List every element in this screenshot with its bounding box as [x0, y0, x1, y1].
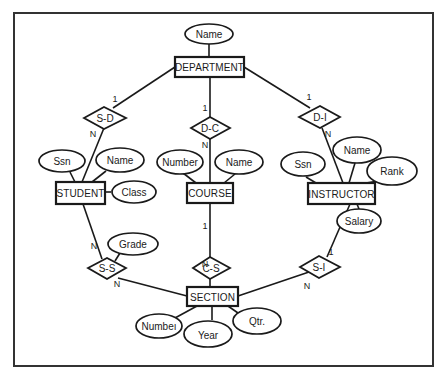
- rel-label: S-I: [313, 262, 326, 273]
- attr-label: Grade: [119, 239, 147, 250]
- rel-label: D-I: [313, 112, 326, 123]
- attr-label: Qtr.: [249, 316, 265, 327]
- attr-section-year[interactable]: Year: [184, 321, 232, 347]
- card-d-i-dept: 1: [306, 92, 311, 102]
- attr-label: Name: [196, 29, 223, 40]
- rel-label: D-C: [201, 123, 219, 134]
- card-s-i-section: N: [304, 281, 311, 291]
- attr-section-number[interactable]: Numbeı: [136, 314, 182, 338]
- card-c-s-course: 1: [202, 221, 207, 231]
- rel-c-s[interactable]: C-S: [193, 257, 230, 279]
- entity-instructor[interactable]: INSTRUCTOR: [308, 183, 375, 204]
- attr-label: Ssn: [294, 159, 311, 170]
- entity-section[interactable]: SECTION: [187, 287, 238, 306]
- rel-s-i[interactable]: S-I: [300, 256, 340, 278]
- attr-instructor-name[interactable]: Name: [333, 137, 381, 163]
- attr-instructor-rank[interactable]: Rank: [367, 157, 417, 185]
- attr-label: Numbeı: [141, 321, 176, 332]
- card-c-s-section: N: [202, 259, 209, 269]
- attr-student-class[interactable]: Class: [112, 181, 156, 203]
- attr-student-ssn[interactable]: Ssn: [39, 150, 85, 172]
- entity-label: SECTION: [190, 292, 235, 303]
- card-d-c-dept: 1: [202, 103, 207, 113]
- card-d-i-instructor: N: [325, 129, 332, 139]
- attr-label: Rank: [380, 166, 404, 177]
- rel-s-d[interactable]: S-D: [84, 107, 126, 129]
- rel-label: S-D: [96, 113, 113, 124]
- attr-instructor-salary[interactable]: Salary: [337, 209, 381, 233]
- rel-d-c[interactable]: D-C: [191, 117, 230, 139]
- entity-label: INSTRUCTOR: [308, 189, 374, 200]
- rel-s-s[interactable]: S-S: [88, 258, 126, 279]
- attr-label: Name: [107, 155, 134, 166]
- attr-label: Name: [226, 157, 253, 168]
- attr-course-name[interactable]: Name: [215, 150, 263, 174]
- entity-label: COURSE: [188, 188, 232, 199]
- card-s-d-student: N: [90, 129, 97, 139]
- attr-label: Year: [198, 330, 219, 341]
- attr-department-name[interactable]: Name: [185, 24, 233, 44]
- attr-ss-grade[interactable]: Grade: [108, 233, 158, 255]
- er-diagram-canvas: DEPARTMENT STUDENT COURSE INSTRUCTOR SEC…: [0, 0, 446, 377]
- entity-label: STUDENT: [57, 188, 105, 199]
- card-s-s-section: N: [114, 279, 121, 289]
- attr-label: Ssn: [53, 156, 70, 167]
- entity-student[interactable]: STUDENT: [56, 182, 105, 204]
- attr-label: Name: [344, 145, 371, 156]
- card-s-s-student: N: [91, 241, 98, 251]
- attr-section-qtr[interactable]: Qtr.: [233, 308, 281, 334]
- card-s-i-instructor: 1: [328, 247, 333, 257]
- attr-course-number[interactable]: Number: [157, 150, 203, 174]
- card-s-d-dept: 1: [112, 94, 117, 104]
- attr-label: Salary: [345, 216, 373, 227]
- rel-label: S-S: [99, 263, 116, 274]
- card-d-c-course: N: [202, 140, 209, 150]
- rel-d-i[interactable]: D-I: [299, 106, 340, 128]
- attr-instructor-ssn[interactable]: Ssn: [281, 152, 325, 176]
- entity-label: DEPARTMENT: [175, 62, 244, 73]
- attr-student-name[interactable]: Name: [96, 148, 144, 172]
- entity-department[interactable]: DEPARTMENT: [175, 57, 244, 77]
- attr-label: Number: [162, 157, 198, 168]
- entity-course[interactable]: COURSE: [187, 183, 233, 203]
- attr-label: Class: [121, 187, 146, 198]
